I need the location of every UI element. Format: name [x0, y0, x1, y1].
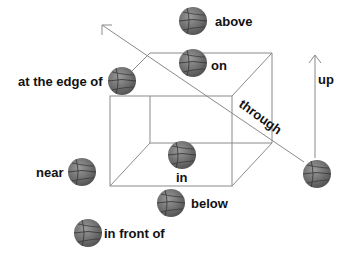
ball-up-through-icon	[303, 160, 331, 188]
prepositions-diagram: above on at the edge of through up in ne…	[0, 0, 360, 263]
ball-in-icon	[168, 141, 196, 169]
through-arrow	[102, 25, 304, 162]
ball-near-icon	[68, 158, 96, 186]
ball-below-icon	[157, 189, 185, 217]
label-at-the-edge-of: at the edge of	[18, 74, 103, 89]
label-in: in	[176, 170, 188, 185]
label-on: on	[211, 58, 227, 73]
label-near: near	[36, 165, 63, 180]
ball-above-icon	[179, 7, 207, 35]
ball-in-front-of-icon	[74, 219, 102, 247]
label-up: up	[318, 72, 334, 87]
ball-edge-icon	[108, 67, 136, 95]
label-below: below	[191, 196, 229, 211]
label-through: through	[236, 96, 285, 137]
up-arrow	[309, 55, 321, 158]
ball-on-icon	[179, 49, 207, 77]
label-above: above	[215, 14, 253, 29]
label-in-front-of: in front of	[104, 226, 165, 241]
